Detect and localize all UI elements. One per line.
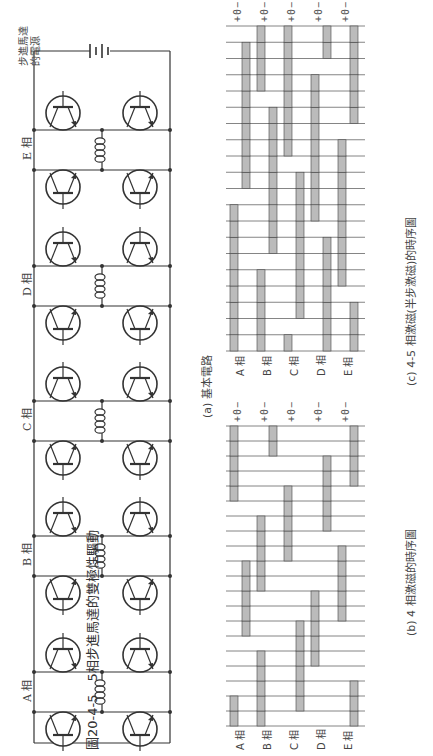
- timing-c-pulse-e: [350, 26, 358, 42]
- timing-c-pulse-b: [269, 156, 277, 172]
- timing-c-pulse-e: [350, 42, 358, 58]
- timing-c-pulse-a: [230, 254, 238, 270]
- transistor-upper-right-4: [46, 91, 80, 130]
- timing-c-pulse-b: [257, 270, 265, 286]
- phase-label-d: D 相: [18, 273, 34, 296]
- timing-c-pulse-c: [296, 302, 304, 318]
- timing-c-pulse-a: [242, 59, 250, 75]
- transistor-lower-left-0: [123, 712, 157, 751]
- timing-b-pulse-e: [350, 471, 358, 486]
- junction-dot: [32, 399, 36, 403]
- junction-dot: [32, 128, 36, 132]
- timing-c-pulse-b: [257, 59, 265, 75]
- transistor-upper-right-3: [46, 227, 80, 266]
- timing-b-pulse-b: [269, 441, 277, 456]
- timing-b-pulse-b: [257, 561, 265, 576]
- phase-label-e: E 相: [18, 137, 34, 160]
- transistor-lower-right-0: [123, 633, 157, 672]
- timing-c-pulse-e: [350, 335, 358, 351]
- timing-b-pulse-c: [284, 516, 292, 531]
- power-supply-label: 步進馬達 的電源: [18, 26, 42, 66]
- timing-b-level-marks: +0−: [232, 401, 243, 422]
- timing-c-pulse-b: [257, 302, 265, 318]
- timing-b-pulse-b: [257, 546, 265, 561]
- timing-b-pulse-c: [296, 636, 304, 651]
- timing-c-pulse-b: [269, 221, 277, 237]
- timing-c-row-label-a: A 相: [232, 356, 247, 376]
- timing-c-level-marks: +0−: [313, 1, 324, 22]
- transistor-lower-right-1: [123, 497, 157, 536]
- timing-c-pulse-a: [230, 319, 238, 335]
- phase-label-b: B 相: [18, 543, 34, 566]
- circuit-caption: (a) 基本電路: [198, 355, 214, 418]
- junction-dot: [100, 304, 104, 308]
- timing-c-pulse-c: [284, 26, 292, 42]
- timing-b-pulse-c: [284, 501, 292, 516]
- timing-b-pulse-a: [230, 696, 238, 711]
- junction-dot: [100, 399, 104, 403]
- transistor-upper-left-2: [46, 441, 80, 480]
- transistor-upper-left-3: [46, 306, 80, 345]
- timing-b-pulse-b: [257, 531, 265, 546]
- timing-b-level-marks: +0−: [313, 401, 324, 422]
- timing-b-pulse-e: [350, 681, 358, 696]
- junction-dot: [100, 168, 104, 172]
- timing-c-pulse-a: [230, 237, 238, 253]
- timing-b-pulse-d: [323, 456, 331, 471]
- timing-b-pulse-b: [257, 576, 265, 591]
- timing-c-pulse-e: [338, 189, 346, 205]
- transistor-lower-left-1: [123, 576, 157, 615]
- timing-b-pulse-e: [338, 561, 346, 576]
- timing-c-pulse-b: [269, 140, 277, 156]
- timing-c-pulse-e: [350, 59, 358, 75]
- timing-b-pulse-e: [350, 696, 358, 711]
- junction-dot: [100, 439, 104, 443]
- timing-c-pulse-a: [242, 172, 250, 188]
- timing-c-pulse-b: [269, 237, 277, 253]
- timing-c-pulse-e: [338, 172, 346, 188]
- timing-c-pulse-c: [284, 140, 292, 156]
- timing-b-pulse-c: [296, 681, 304, 696]
- timing-c-pulse-b: [257, 286, 265, 302]
- timing-c-caption: (c) 4-5 相激磁(半步激磁)的時序圖: [402, 217, 418, 386]
- phase-label-c: C 相: [18, 408, 34, 431]
- timing-b-pulse-d: [323, 501, 331, 516]
- timing-b-pulse-a: [230, 456, 238, 471]
- timing-c-pulse-e: [350, 91, 358, 107]
- timing-c-pulse-e: [338, 140, 346, 156]
- timing-c-pulse-c: [284, 335, 292, 351]
- timing-b-pulse-c: [284, 486, 292, 501]
- timing-c-pulse-c: [296, 270, 304, 286]
- timing-b-pulse-e: [338, 576, 346, 591]
- timing-c-pulse-d: [311, 189, 319, 205]
- transistor-upper-left-0: [46, 712, 80, 751]
- timing-c-pulse-a: [230, 302, 238, 318]
- timing-b-pulse-e: [338, 606, 346, 621]
- junction-dot: [32, 168, 36, 172]
- junction-dot: [32, 534, 36, 538]
- timing-b-pulse-d: [311, 636, 319, 651]
- timing-b-pulse-a: [242, 621, 250, 636]
- timing-c-pulse-c: [296, 254, 304, 270]
- transistor-upper-right-2: [46, 362, 80, 401]
- junction-dot: [168, 399, 172, 403]
- junction-dot: [32, 264, 36, 268]
- timing-b-pulse-a: [230, 426, 238, 441]
- junction-dot: [32, 670, 36, 674]
- timing-c-pulse-b: [269, 205, 277, 221]
- transistor-lower-left-3: [123, 306, 157, 345]
- timing-c-pulse-e: [350, 319, 358, 335]
- timing-c-pulse-c: [296, 172, 304, 188]
- timing-b-pulse-a: [230, 471, 238, 486]
- transistor-upper-right-1: [46, 497, 80, 536]
- timing-c-pulse-b: [269, 107, 277, 123]
- timing-b-pulse-d: [323, 471, 331, 486]
- timing-c-pulse-a: [242, 91, 250, 107]
- junction-dot: [168, 710, 172, 714]
- timing-c-pulse-b: [257, 42, 265, 58]
- timing-c-pulse-c: [296, 189, 304, 205]
- timing-c-pulse-c: [296, 237, 304, 253]
- timing-c-pulse-a: [242, 42, 250, 58]
- timing-b-pulse-d: [311, 606, 319, 621]
- timing-b-pulse-a: [230, 441, 238, 456]
